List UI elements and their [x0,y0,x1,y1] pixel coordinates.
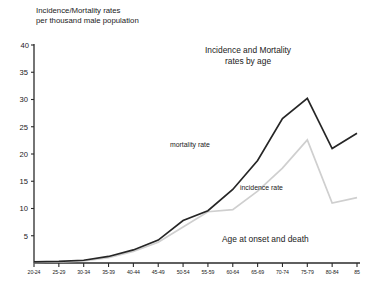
x-axis-label-25-29: 25-29 [52,269,65,275]
x-axis-label-50-54: 50-54 [177,269,190,275]
x-axis-label-55-59: 55-59 [202,269,215,275]
x-axis-label-45-49: 45-49 [152,269,165,275]
x-axis-label-80-84: 80-84 [326,269,339,275]
x-axis-label-60-64: 60-64 [226,269,239,275]
y-axis-label-10: 10 [20,204,28,213]
y-axis-label-30: 30 [20,95,28,104]
axis-header-line1: Incidence/Mortality rates [36,6,121,15]
y-axis-label-15: 15 [20,177,28,186]
x-axis-label-20-24: 20-24 [28,269,41,275]
x-axis-label-40-44: 40-44 [127,269,140,275]
axis-header-line2: per thousand male population [36,16,139,25]
y-axis-label-5: 5 [24,232,28,241]
series-line-incidence [34,140,357,263]
y-axis-label-35: 35 [20,68,28,77]
y-axis-label-20: 20 [20,150,28,159]
incidence-mortality-line-chart: Incidence/Mortality rates per thousand m… [0,0,373,284]
x-axis-label-35-39: 35-39 [102,269,115,275]
x-axis-tick-labels: 20-2425-2930-3435-3940-4445-4950-5455-59… [28,269,360,275]
annotation-incidence-rate: incidence rate [240,184,283,191]
x-axis-label-30-34: 30-34 [77,269,90,275]
annotation-mortality-rate: mortality rate [170,141,210,149]
y-axis-tick-labels: 5101520253035 [20,68,28,241]
chart-title-line1: Incidence and Mortality [205,45,292,55]
x-axis-label-70-74: 70-74 [276,269,289,275]
y-axis-label-40: 40 [21,41,29,50]
chart-container: Incidence/Mortality rates per thousand m… [0,0,373,284]
y-axis-label-25: 25 [20,123,28,132]
x-axis-label-75-79: 75-79 [301,269,314,275]
chart-title-line2: rates by age [225,56,271,66]
x-axis-label-65-69: 65-69 [251,269,264,275]
x-axis-title: Age at onset and death [222,234,309,244]
x-axis-label-85: 85 [354,269,360,275]
